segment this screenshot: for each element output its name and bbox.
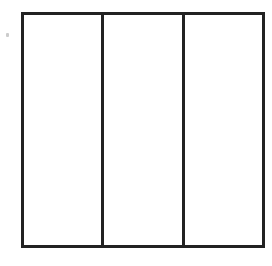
divided-rectangle <box>21 12 265 248</box>
divider-line-2 <box>182 15 185 245</box>
divider-line-1 <box>101 15 104 245</box>
stray-mark <box>6 33 9 37</box>
